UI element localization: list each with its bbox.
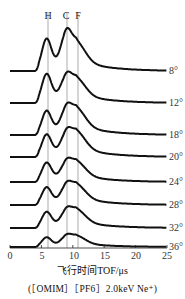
x-axis-title: 飞行时间TOF/μs <box>0 262 185 277</box>
x-tick-20: 20 <box>131 250 141 261</box>
x-tick-0: 0 <box>8 250 13 261</box>
x-tick-10: 10 <box>69 250 79 261</box>
spectrum-curve-36 <box>10 234 166 247</box>
chart-caption: (［OMIM］［PF6］2.0keV Ne⁺) <box>0 281 185 295</box>
spectrum-curve-20 <box>10 127 166 157</box>
x-tick-5: 5 <box>40 250 45 261</box>
angle-label-12: 12° <box>169 97 183 108</box>
angle-label-32: 32° <box>169 222 183 233</box>
x-tick-15: 15 <box>100 250 110 261</box>
peak-label-f: F <box>75 10 81 21</box>
angle-label-36: 36° <box>169 241 183 252</box>
spectrum-curve-8 <box>10 28 166 71</box>
spectrum-curve-32 <box>10 206 166 228</box>
spectrum-curve-28 <box>10 181 166 205</box>
spectrum-curve-12 <box>10 72 166 104</box>
angle-label-24: 24° <box>169 176 183 187</box>
angle-label-18: 18° <box>169 129 183 140</box>
angle-label-28: 28° <box>169 199 183 210</box>
angle-label-8: 8° <box>169 65 178 76</box>
spectra-curves <box>10 28 166 247</box>
spectrum-curve-18 <box>10 103 166 136</box>
angle-label-20: 20° <box>169 151 183 162</box>
peak-label-c: C <box>63 10 70 21</box>
tof-spectra-chart: H C F 0 5 10 15 20 25 8° 12° 18° 20° 24°… <box>0 0 185 299</box>
peak-label-h: H <box>44 10 51 21</box>
spectrum-curve-24 <box>10 158 166 182</box>
